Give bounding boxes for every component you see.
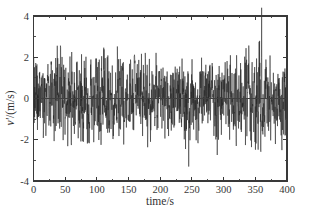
velocity-fluctuation-chart: 050100150200250300350400 -4-2024 time/s … — [0, 0, 310, 218]
y-axis-unit: /(m/s) — [4, 90, 17, 118]
y-tick-label: -2 — [20, 134, 29, 145]
x-tick-label: 200 — [152, 184, 168, 195]
y-tick-label: 0 — [24, 93, 29, 104]
x-tick-label: 400 — [279, 184, 295, 195]
y-tick-label: -4 — [20, 176, 29, 187]
x-tick-label: 50 — [60, 184, 71, 195]
x-tick-label: 350 — [247, 184, 263, 195]
x-tick-label: 0 — [31, 184, 36, 195]
y-axis-title-text: v'/(m/s) — [4, 90, 17, 125]
x-tick-label: 100 — [89, 184, 105, 195]
x-axis-title: time/s — [146, 195, 175, 207]
x-tick-label: 300 — [216, 184, 232, 195]
y-tick-label: 4 — [24, 11, 30, 22]
x-tick-label: 150 — [121, 184, 137, 195]
y-tick-label: 2 — [24, 52, 29, 63]
figure-container: 050100150200250300350400 -4-2024 time/s … — [0, 0, 310, 218]
x-tick-label: 250 — [184, 184, 200, 195]
y-axis-title: v'/(m/s) — [4, 90, 17, 125]
